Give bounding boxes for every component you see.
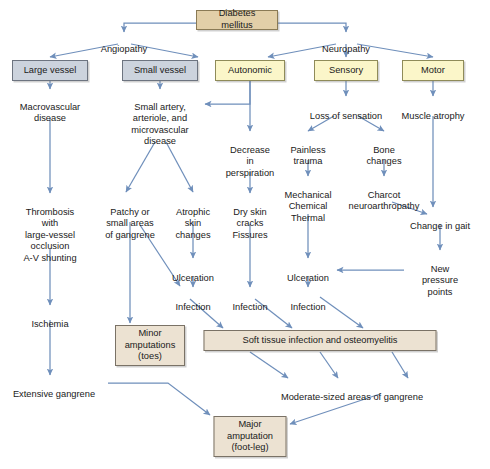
- node-label: Infection: [290, 302, 325, 312]
- diabetic-foot-flowchart: Diabetes mellitus Angiopathy Neuropathy …: [0, 0, 490, 469]
- node-charcot-neuroarthropathy: Charcot neuroarthropathy: [339, 178, 429, 213]
- node-label: Bone changes: [366, 145, 401, 167]
- node-label: Dry skin cracks Fissures: [232, 207, 267, 240]
- node-small-vessel[interactable]: Small vessel: [122, 60, 198, 81]
- node-label: New pressure points: [422, 264, 458, 297]
- node-extensive-gangrene: Extensive gangrene: [1, 377, 107, 400]
- node-sensory[interactable]: Sensory: [314, 60, 378, 81]
- node-label: Ischemia: [31, 319, 68, 329]
- node-macrovascular-disease: Macrovascular disease: [0, 90, 100, 125]
- node-label: Small vessel: [134, 65, 186, 77]
- node-label: Major amputation (foot-leg): [227, 419, 273, 454]
- node-label: Diabetes mellitus: [204, 8, 270, 31]
- node-label: Angiopathy: [101, 44, 148, 54]
- node-patchy-gangrene: Patchy or small areas of gangrene: [92, 195, 168, 241]
- node-painless-trauma: Painless trauma: [275, 133, 341, 168]
- node-small-artery-disease: Small artery, arteriole, and microvascul…: [114, 90, 206, 148]
- node-infection-right: Infection: [279, 290, 337, 313]
- node-label: Motor: [421, 65, 445, 77]
- node-bone-changes: Bone changes: [353, 133, 415, 168]
- node-label: Atrophic skin changes: [175, 207, 210, 240]
- node-label: Sensory: [329, 65, 363, 77]
- node-infection-mid: Infection: [221, 290, 279, 313]
- node-label: Extensive gangrene: [13, 389, 95, 399]
- node-change-in-gait: Change in gait: [394, 209, 486, 232]
- node-label: Minor amputations (toes): [125, 328, 176, 363]
- node-ulceration-mid: Ulceration: [160, 261, 226, 284]
- node-label: Soft tissue infection and osteomyelitis: [242, 335, 397, 347]
- node-label: Infection: [232, 302, 267, 312]
- node-atrophic-skin-changes: Atrophic skin changes: [165, 195, 221, 241]
- node-dry-skin-cracks-fissures: Dry skin cracks Fissures: [221, 195, 279, 241]
- node-label: Loss of sensation: [310, 111, 382, 121]
- node-label: Painless trauma: [290, 145, 325, 167]
- node-label: Neuropathy: [322, 44, 370, 54]
- node-soft-tissue-infection[interactable]: Soft tissue infection and osteomyelitis: [204, 330, 437, 351]
- node-major-amputation[interactable]: Major amputation (foot-leg): [214, 416, 287, 457]
- node-mechanical-chemical-thermal: Mechanical Chemical Thermal: [271, 178, 345, 224]
- node-label: Macrovascular disease: [20, 102, 80, 124]
- node-autonomic[interactable]: Autonomic: [215, 60, 285, 81]
- node-label: Charcot neuroarthropathy: [349, 190, 420, 212]
- node-label: Small artery, arteriole, and microvascul…: [131, 102, 188, 147]
- node-label: Change in gait: [410, 221, 470, 231]
- node-label: Moderate-sized areas of gangrene: [281, 392, 423, 402]
- node-label: Mechanical Chemical Thermal: [284, 190, 331, 223]
- node-label: Autonomic: [228, 65, 272, 77]
- node-ischemia: Ischemia: [19, 307, 81, 330]
- node-infection-left: Infection: [164, 290, 222, 313]
- node-moderate-gangrene: Moderate-sized areas of gangrene: [268, 380, 436, 403]
- node-angiopathy: Angiopathy: [79, 32, 169, 55]
- node-muscle-atrophy: Muscle atrophy: [387, 99, 479, 122]
- node-thrombosis: Thrombosis with large-vessel occlusion A…: [3, 195, 97, 265]
- node-ulceration-right: Ulceration: [275, 261, 341, 284]
- node-minor-amputations[interactable]: Minor amputations (toes): [115, 325, 185, 366]
- node-loss-of-sensation: Loss of sensation: [296, 99, 396, 122]
- node-motor[interactable]: Motor: [402, 60, 464, 81]
- node-label: Decrease in perspiration: [226, 145, 275, 178]
- node-label: Ulceration: [172, 273, 214, 283]
- node-label: Thrombosis with large-vessel occlusion A…: [23, 207, 76, 263]
- node-label: Muscle atrophy: [401, 111, 464, 121]
- node-label: Patchy or small areas of gangrene: [105, 207, 155, 240]
- node-new-pressure-points: New pressure points: [409, 252, 471, 298]
- node-large-vessel[interactable]: Large vessel: [12, 60, 88, 81]
- node-label: Large vessel: [24, 65, 77, 77]
- node-label: Ulceration: [287, 273, 329, 283]
- node-label: Infection: [175, 302, 210, 312]
- node-diabetes-mellitus[interactable]: Diabetes mellitus: [196, 10, 278, 30]
- node-neuropathy: Neuropathy: [301, 32, 391, 55]
